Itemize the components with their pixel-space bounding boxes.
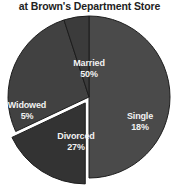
pie-slice-married — [89, 16, 170, 178]
pie-chart-graphic — [0, 0, 179, 189]
pie-chart-screenshot: at Brown's Department Store Married 50% … — [0, 0, 179, 189]
